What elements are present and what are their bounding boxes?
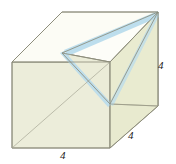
geometry-figure: 4 4 4 xyxy=(0,0,176,164)
dimension-label-bottom-right-edge: 4 xyxy=(128,130,134,141)
dimension-label-bottom-edge: 4 xyxy=(60,150,66,161)
dimension-label-right-edge: 4 xyxy=(158,60,164,71)
cube-diagram-svg xyxy=(0,0,176,164)
